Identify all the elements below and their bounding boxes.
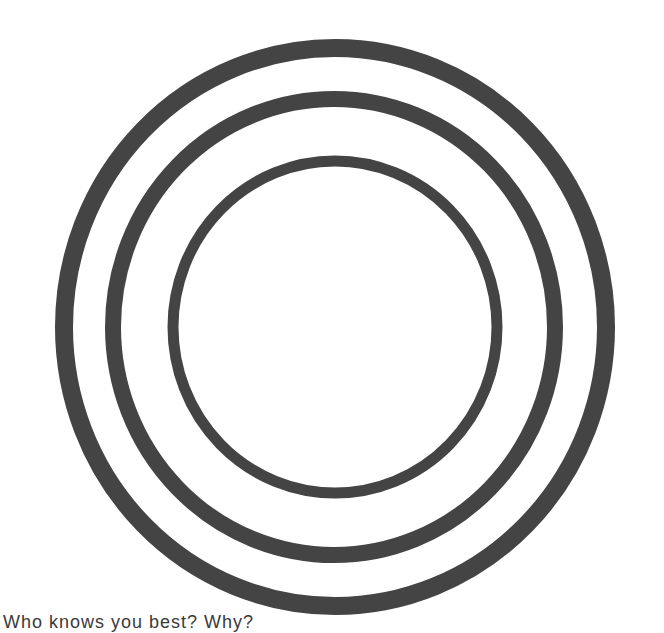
- outer-ring: [64, 48, 606, 606]
- inner-ring: [173, 161, 497, 493]
- worksheet-prompt: Who knows you best? Why?: [3, 612, 254, 632]
- middle-ring: [113, 99, 555, 555]
- concentric-circles-diagram: [0, 0, 664, 633]
